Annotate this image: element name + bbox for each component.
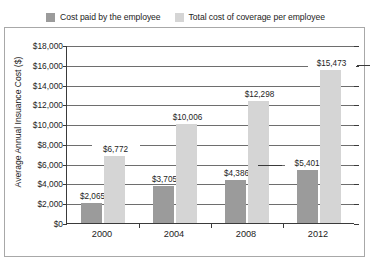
chart-container: Average Annual Insuance Cost ($) $0$2,00…	[4, 27, 365, 257]
chart-legend: Cost paid by the employee Total cost of …	[0, 9, 371, 25]
y-axis-tick-label: $16,000	[13, 61, 63, 70]
y-axis-tick-label: $18,000	[13, 42, 63, 51]
y-axis-tick-labels: $0$2,000$4,000$6,000$8,000$10,000$12,000…	[13, 46, 63, 224]
y-axis-tick-mark-right	[354, 184, 359, 185]
y-axis-tick-label: $0	[13, 220, 63, 229]
bar[interactable]	[320, 70, 341, 223]
x-axis-tick-labels: 2000200420082012	[66, 228, 354, 242]
y-axis-tick-label: $2,000	[13, 200, 63, 209]
y-axis-tick-mark-right	[354, 86, 359, 87]
y-axis-tick-mark-right	[354, 145, 359, 146]
value-label-leader-line	[357, 65, 370, 66]
bar[interactable]	[248, 101, 269, 223]
bar-value-label: $10,006	[164, 113, 212, 122]
y-axis-tick-label: $4,000	[13, 180, 63, 189]
y-axis-tick-label: $10,000	[13, 121, 63, 130]
bar[interactable]	[176, 124, 197, 223]
plot-area: $2,065$6,772$3,705$10,006$4,386$12,298$5…	[66, 46, 354, 224]
legend-label-total-coverage-cost: Total cost of coverage per employee	[189, 13, 325, 22]
bar[interactable]	[81, 203, 102, 223]
y-axis-tick-mark-right	[354, 204, 359, 205]
y-axis-tick-mark-right	[354, 125, 359, 126]
bar-group: $3,705$10,006	[153, 46, 197, 223]
x-axis-tick-label: 2000	[66, 228, 138, 240]
bar-groups: $2,065$6,772$3,705$10,006$4,386$12,298$5…	[67, 46, 354, 223]
bar-value-label: $15,473	[308, 59, 356, 68]
bar-group: $5,401-$15,473	[297, 46, 341, 223]
bar[interactable]	[104, 156, 125, 223]
y-axis-tick-mark-right	[354, 224, 359, 225]
legend-item-employee-cost: Cost paid by the employee	[46, 13, 161, 22]
legend-swatch-total-coverage-cost	[175, 13, 184, 22]
y-axis-tick-label: $8,000	[13, 140, 63, 149]
x-axis-tick-label: 2008	[210, 228, 282, 240]
x-axis-tick-label: 2012	[282, 228, 354, 240]
y-axis-tick-mark-right	[354, 165, 359, 166]
bar[interactable]	[297, 170, 318, 223]
legend-label-employee-cost: Cost paid by the employee	[60, 13, 161, 22]
bar-group: $2,065$6,772	[81, 46, 125, 223]
value-label-leader-line	[258, 165, 282, 166]
y-axis-tick-mark-right	[354, 105, 359, 106]
legend-item-total-coverage-cost: Total cost of coverage per employee	[175, 13, 325, 22]
x-axis-tick-label: 2004	[138, 228, 210, 240]
bar-value-label: $6,772	[92, 145, 140, 154]
y-axis-tick-label: $14,000	[13, 81, 63, 90]
bar[interactable]	[153, 186, 174, 223]
bar-group: $4,386$12,298	[225, 46, 269, 223]
bar-value-label: $12,298	[236, 90, 284, 99]
bar[interactable]	[225, 180, 246, 223]
y-axis-tick-label: $6,000	[13, 160, 63, 169]
y-axis-tick-label: $12,000	[13, 101, 63, 110]
y-axis-tick-mark-right	[354, 46, 359, 47]
legend-swatch-employee-cost	[46, 13, 55, 22]
